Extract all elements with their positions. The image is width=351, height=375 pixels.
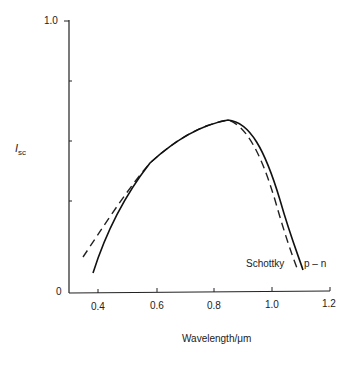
x-tick-label-1: 0.6 xyxy=(150,300,164,311)
y-axis xyxy=(64,20,69,293)
y-tick-label-zero: 0 xyxy=(56,286,62,297)
series-pn-line xyxy=(93,120,303,273)
x-tick-label-2: 0.8 xyxy=(207,300,221,311)
annotation-pn: p – n xyxy=(304,258,326,269)
series-schottky-line xyxy=(83,120,297,268)
x-axis xyxy=(69,291,330,293)
annotation-schottky: Schottky xyxy=(246,258,284,269)
y-axis-label: Isc xyxy=(15,142,26,157)
y-axis-label-sub: sc xyxy=(18,148,26,157)
x-tick-label-3: 1.0 xyxy=(265,299,279,310)
y-tick-label-top: 1.0 xyxy=(44,15,58,26)
x-tick-label-0: 0.4 xyxy=(91,301,105,312)
x-axis-label: Wavelength/μm xyxy=(182,333,251,344)
chart-plot-area xyxy=(0,0,351,375)
x-tick-label-4: 1.2 xyxy=(322,298,336,309)
